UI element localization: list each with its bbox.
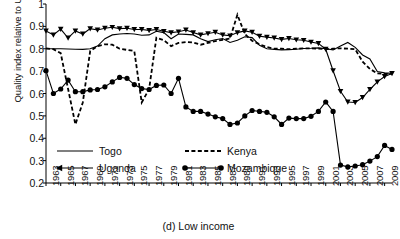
series-marker-mozambique [301,116,306,121]
series-marker-mozambique [375,154,380,159]
series-marker-mozambique [279,122,284,127]
series-marker-mozambique [272,114,277,119]
series-marker-uganda [51,33,57,38]
series-marker-mozambique [161,82,166,87]
series-marker-uganda [65,36,71,41]
series-marker-mozambique [58,86,63,91]
series-marker-mozambique [43,68,48,73]
series-marker-mozambique [235,120,240,125]
series-marker-uganda [330,68,336,73]
series-marker-mozambique [360,162,365,167]
series-marker-mozambique [353,163,358,168]
series-marker-mozambique [95,87,100,92]
series-marker-mozambique [51,91,56,96]
series-marker-mozambique [191,109,196,114]
series-marker-mozambique [88,87,93,92]
series-marker-mozambique [110,79,115,84]
series-marker-mozambique [227,122,232,127]
legend-label-togo: Togo [99,145,122,157]
series-marker-mozambique [345,164,350,169]
legend-label-kenya: Kenya [227,145,257,157]
series-marker-mozambique [323,99,328,104]
series-marker-mozambique [308,114,313,119]
series-marker-mozambique [316,109,321,114]
series-marker-mozambique [205,112,210,117]
series-marker-mozambique [331,109,336,114]
series-marker-mozambique [183,104,188,109]
series-line-togo [46,31,392,73]
series-marker-mozambique [124,76,129,81]
series-marker-mozambique [257,109,262,114]
series-marker-mozambique [250,108,255,113]
series-marker-mozambique [80,89,85,94]
series-line-mozambique [46,71,392,167]
series-marker-mozambique [176,76,181,81]
series-marker-mozambique [117,75,122,80]
series-marker-mozambique [213,114,218,119]
series-marker-mozambique [382,143,387,148]
series-marker-mozambique [367,159,372,164]
series-marker-mozambique [147,87,152,92]
series-marker-mozambique [242,113,247,118]
series-marker-mozambique [139,86,144,91]
series-marker-uganda [80,32,86,37]
series-marker-mozambique [294,116,299,121]
series-marker-uganda [43,29,49,34]
figure-caption: (d) Low income [0,220,397,232]
series-marker-mozambique [73,89,78,94]
series-marker-mozambique [154,83,159,88]
series-marker-uganda [360,95,366,100]
series-marker-mozambique [338,163,343,168]
series-marker-mozambique [220,116,225,121]
series-marker-uganda [95,28,101,33]
series-marker-mozambique [198,109,203,114]
legend-label-mozambique: Mozambique [227,162,287,174]
series-marker-mozambique [66,78,71,83]
series-marker-mozambique [132,82,137,87]
series-marker-mozambique [389,147,394,152]
series-marker-mozambique [102,84,107,89]
legend-label-uganda: Uganda [99,162,136,174]
series-marker-mozambique [264,110,269,115]
series-marker-mozambique [169,91,174,96]
series-marker-mozambique [286,116,291,121]
series-marker-uganda [198,33,204,38]
